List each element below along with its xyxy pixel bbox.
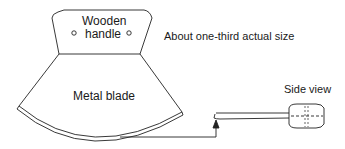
blade-label: Metal blade [73, 90, 135, 102]
rivet-right-icon [127, 31, 131, 35]
knife-drawing [0, 0, 345, 149]
scale-note: About one-third actual size [164, 31, 294, 42]
side-view-label: Side view [284, 84, 331, 95]
blade-outline [19, 54, 182, 112]
arrow-head-icon [213, 120, 219, 128]
side-view-blade [214, 113, 289, 119]
blade-edge [19, 106, 182, 137]
handle-label-line1: Wooden [82, 15, 126, 27]
handle-label-line2: handle [85, 28, 121, 40]
knife-diagram: Wooden handle Metal blade About one-thir… [0, 0, 345, 149]
rivet-left-icon [72, 31, 76, 35]
